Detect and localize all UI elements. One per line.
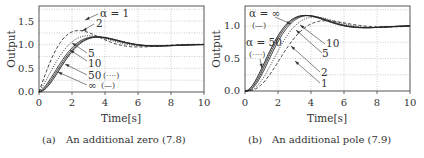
- caption: An additional zero (7.8): [65, 134, 186, 145]
- x-tick: 8: [374, 97, 380, 108]
- x-tick: 6: [135, 97, 141, 108]
- chart-additional-zero: 0.0 0.5 1.0 1.5 0 2 4 6 8 10 Time[s] Out…: [5, 6, 210, 145]
- label-alpha-inf: α = ∞: [249, 7, 280, 19]
- x-axis-label: Time[s]: [307, 112, 347, 124]
- y-tick: 0.5: [18, 63, 34, 74]
- response-curves: [39, 31, 204, 92]
- y-axis-label: Output: [210, 30, 222, 68]
- x-tick: 0: [36, 97, 42, 108]
- chart-additional-pole: 0.0 0.5 1.0 0 2 4 6 8 10 Time[s] Output …: [210, 6, 416, 145]
- x-tick: 0: [242, 97, 248, 108]
- y-tick: 1.5: [18, 16, 34, 27]
- x-tick: 10: [198, 97, 211, 108]
- y-tick: 1.0: [224, 20, 240, 31]
- x-tick: 4: [308, 97, 314, 108]
- label-alpha-10: 10: [88, 57, 101, 69]
- caption-label: (b): [248, 134, 262, 145]
- annotations: [260, 17, 325, 83]
- label-alpha-inf-style: (—): [101, 81, 115, 90]
- y-tick: 1.0: [18, 39, 34, 50]
- figure: 0.0 0.5 1.0 1.5 0 2 4 6 8 10 Time[s] Out…: [0, 0, 424, 158]
- label-alpha-50: α = 50: [246, 36, 282, 48]
- x-tick: 8: [168, 97, 174, 108]
- y-axis-label: Output: [5, 30, 17, 68]
- label-alpha-inf-style: (—): [252, 21, 266, 30]
- y-tick: 0.0: [224, 85, 240, 96]
- x-tick: 2: [69, 97, 75, 108]
- label-alpha-5: 5: [322, 47, 329, 59]
- caption: An additional pole (7.9): [271, 134, 391, 145]
- x-axis-label: Time[s]: [101, 112, 141, 124]
- x-tick: 10: [404, 97, 417, 108]
- caption-label: (a): [42, 134, 56, 145]
- label-alpha-2: 2: [96, 17, 103, 29]
- label-alpha-1: 1: [321, 77, 328, 89]
- x-tick: 4: [102, 97, 108, 108]
- x-tick: 2: [275, 97, 281, 108]
- label-alpha-50-style: (····): [249, 50, 265, 59]
- label-alpha-50-style: (····): [103, 71, 119, 80]
- y-tick: 0.0: [18, 86, 34, 97]
- label-alpha-inf: ∞: [88, 79, 97, 91]
- x-tick: 6: [341, 97, 347, 108]
- y-tick: 0.5: [224, 53, 240, 64]
- label-alpha-1: α = 1: [100, 7, 129, 19]
